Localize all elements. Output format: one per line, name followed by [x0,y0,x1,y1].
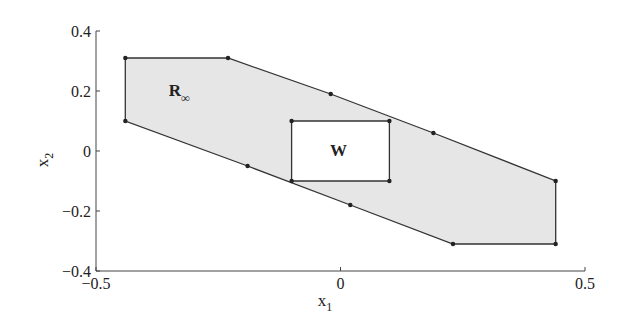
vertex-marker [387,179,391,183]
vertex-marker [431,131,435,135]
vertex-marker [329,92,333,96]
plot-regions: R∞W [123,56,558,246]
y-tick-label: 0 [83,143,91,160]
x-axis-label: x1 [318,291,333,314]
y-tick-label: 0.4 [71,23,91,40]
vertex-marker [451,242,455,246]
chart: R∞W −0.500.50.40.20−0.2−0.4 x1 x2 [0,0,617,336]
y-axis-label: x2 [33,153,56,168]
vertex-marker [123,56,127,60]
x-tick-label: 0 [337,275,345,292]
y-tick-label: −0.4 [62,263,91,280]
vertex-marker [348,203,352,207]
vertex-marker [226,56,230,60]
y-tick-label: −0.2 [62,203,91,220]
region-label: W [330,141,347,160]
vertex-marker [289,179,293,183]
x-tick-label: 0.5 [575,275,595,292]
vertex-marker [553,242,557,246]
region-w: W [289,119,391,183]
vertex-marker [245,164,249,168]
y-tick-label: 0.2 [71,83,91,100]
vertex-marker [123,119,127,123]
vertex-marker [553,179,557,183]
vertex-marker [387,119,391,123]
vertex-marker [289,119,293,123]
